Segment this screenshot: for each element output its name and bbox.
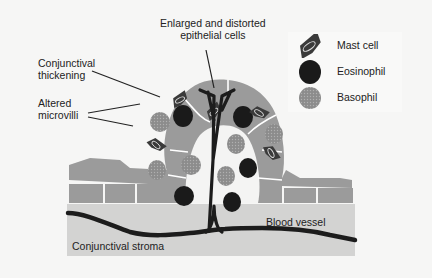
legend-item-basophil: Basophil xyxy=(288,86,402,110)
legend: Mast cell Eosinophil Basophil xyxy=(288,32,402,112)
label-conjunctival-thickening: Conjunctival thickening xyxy=(38,57,95,81)
mast-cell-icon xyxy=(294,34,330,58)
legend-item-mast-cell: Mast cell xyxy=(288,34,402,58)
label-enlarged-cells: Enlarged and distorted epithelial cells xyxy=(160,17,266,41)
basophil-icon xyxy=(294,86,330,110)
label-blood-vessel: Blood vessel xyxy=(266,216,326,228)
eosinophil-icon xyxy=(294,60,330,84)
legend-item-eosinophil: Eosinophil xyxy=(288,60,402,84)
label-altered-microvilli: Altered microvilli xyxy=(38,97,78,121)
label-conjunctival-stroma: Conjunctival stroma xyxy=(72,240,164,252)
